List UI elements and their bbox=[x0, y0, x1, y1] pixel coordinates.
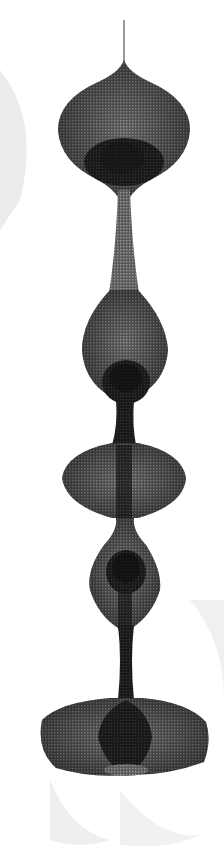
sculpture-photo bbox=[0, 0, 224, 850]
third-lobe bbox=[62, 443, 186, 520]
neck-lower bbox=[118, 625, 134, 700]
bottom-lobe bbox=[41, 698, 209, 776]
second-lobe bbox=[82, 290, 168, 404]
top-lobe bbox=[58, 60, 190, 200]
fourth-lobe bbox=[89, 518, 160, 630]
neck-upper bbox=[108, 190, 140, 300]
sculpture-illustration bbox=[0, 0, 224, 850]
neck-middle bbox=[112, 400, 136, 445]
